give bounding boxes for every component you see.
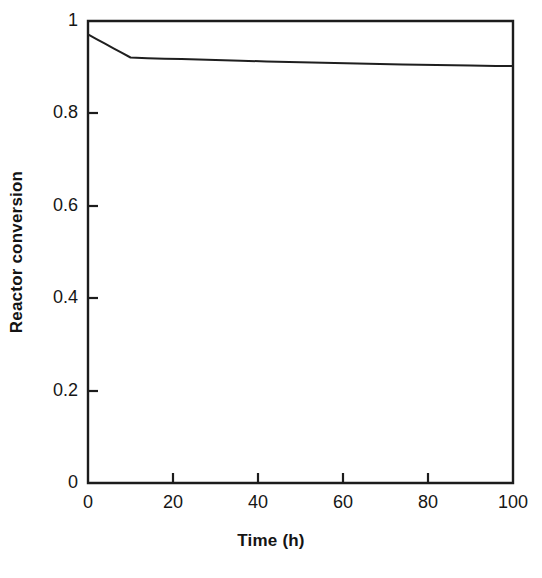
y-tick-marks xyxy=(88,113,98,391)
axis-frame xyxy=(88,21,513,483)
chart-figure: 1 0.8 0.6 0.4 0.2 0 0 20 40 60 80 100 Ti… xyxy=(0,0,542,578)
x-tick-marks xyxy=(173,473,428,483)
plot-area xyxy=(0,0,542,578)
data-series-reactor-conversion xyxy=(88,34,513,66)
